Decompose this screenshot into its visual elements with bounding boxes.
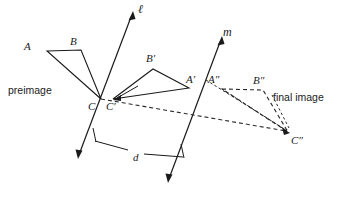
measure-span-left [95, 141, 128, 150]
vertex-label-C-double-prime: C″ [291, 134, 303, 146]
triangle-ABC-outline [47, 50, 101, 99]
vertex-label-A-double-prime: A″ [207, 73, 220, 85]
vertex-label-C: C [88, 100, 96, 112]
line-l-arrowhead-top [129, 11, 136, 21]
vertex-label-A: A [23, 40, 31, 52]
line-l-shaft [80, 17, 131, 152]
geometry-diagram: A B C A′ B′ C′ A″ B″ C″ ℓ m d preimage f… [0, 0, 342, 198]
measure-tick-left [93, 128, 96, 142]
vertex-label-B-prime: B′ [146, 52, 156, 64]
line-label-m: m [223, 25, 232, 39]
ray-m-to-C-double-prime [206, 80, 286, 130]
caption-preimage: preimage [8, 84, 52, 96]
line-m [166, 36, 225, 183]
vertex-label-B: B [70, 35, 77, 47]
vertex-label-B-double-prime: B″ [253, 74, 265, 86]
triangle-A-prime-outline [113, 69, 189, 99]
measure-tick-right [181, 144, 184, 158]
line-m-arrowhead-bottom [166, 174, 173, 184]
triangle-ABC [47, 50, 101, 99]
distance-measure-d [93, 128, 184, 158]
caption-final-image: final image [273, 91, 324, 103]
ray-C-to-C-double-prime [101, 99, 286, 131]
line-l-arrowhead-bottom [76, 150, 83, 160]
diagram-canvas: A B C A′ B′ C′ A″ B″ C″ ℓ m d preimage f… [0, 0, 342, 198]
distance-label-d: d [133, 151, 139, 163]
line-label-l: ℓ [138, 2, 143, 16]
triangle-A-prime-B-prime-C-prime [113, 69, 189, 99]
vertex-label-C-prime: C′ [106, 100, 116, 112]
vertex-label-A-prime: A′ [185, 73, 196, 85]
line-m-shaft [170, 42, 220, 176]
